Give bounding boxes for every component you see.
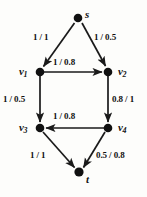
edge-label-v4-v3: 1 / 0.8 — [53, 112, 75, 121]
node-v4 — [104, 124, 113, 133]
node-label-s: s — [85, 9, 89, 20]
edge-label-v3-t: 1 / 1 — [30, 151, 46, 160]
node-label-v4: v4 — [118, 122, 127, 133]
node-t — [74, 167, 83, 176]
node-label-t-text: t — [86, 173, 89, 185]
edge-s-v2 — [82, 23, 106, 66]
node-label-v4-sub: 4 — [122, 126, 126, 135]
flow-network-diagram: s v1 v2 v3 v4 t 1 / 1 1 / 0.5 1 / 0.8 1 … — [0, 0, 147, 197]
edge-label-v1-v3: 1 / 0.5 — [3, 95, 25, 104]
node-label-s-text: s — [85, 8, 89, 20]
edge-v3-t — [43, 132, 75, 168]
node-v2 — [104, 68, 113, 77]
node-label-v1: v1 — [19, 66, 28, 77]
node-label-v2-sub: 2 — [122, 70, 126, 79]
edge-label-v2-v4: 0.8 / 1 — [112, 95, 134, 104]
edge-label-v1-v2: 1 / 0.8 — [53, 58, 75, 67]
edge-label-s-v2: 1 / 0.5 — [94, 33, 116, 42]
node-v1 — [36, 68, 45, 77]
node-label-v1-sub: 1 — [23, 70, 27, 79]
node-label-v3-sub: 3 — [23, 126, 27, 135]
edge-label-s-v1: 1 / 1 — [33, 33, 49, 42]
node-v3 — [36, 124, 45, 133]
edge-group — [40, 23, 108, 168]
node-label-v3: v3 — [19, 122, 28, 133]
node-label-t: t — [86, 174, 89, 185]
edge-label-v4-t: 0.5 / 0.8 — [96, 151, 125, 160]
node-label-v2: v2 — [118, 66, 127, 77]
node-s — [74, 14, 83, 23]
